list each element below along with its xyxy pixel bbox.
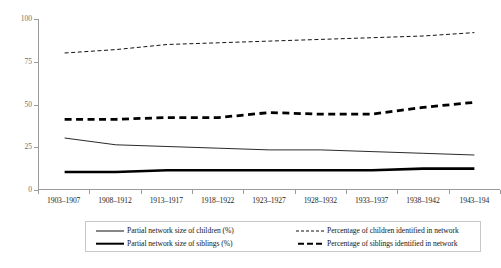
legend-label: Partial network size of siblings (%)	[127, 239, 233, 248]
x-axis-tick-label: 1938–1942	[397, 196, 448, 205]
x-axis-tick-mark	[243, 190, 244, 194]
y-axis-tick-mark	[34, 190, 38, 191]
y-axis-tick-label: 25	[0, 143, 38, 151]
legend-label: Partial network size of children (%)	[127, 226, 234, 235]
x-axis-tick-label: 1928–1932	[295, 196, 346, 205]
legend-line-swatch-dashed-bold-icon	[296, 239, 324, 248]
legend: Partial network size of children (%) Par…	[85, 221, 481, 252]
x-axis-tick-mark	[449, 190, 450, 194]
series-line-1	[65, 169, 475, 172]
legend-label: Percentage of children identified in net…	[327, 226, 459, 235]
x-axis-tick-label: 1913–1917	[141, 196, 192, 205]
legend-line-swatch-solid-thin-icon	[96, 226, 124, 235]
series-layer	[39, 19, 500, 189]
series-line-3	[65, 102, 475, 119]
y-axis-tick-label: 0	[0, 186, 38, 194]
x-axis-tick-mark	[38, 190, 39, 194]
x-axis-tick-label: 1918–1922	[192, 196, 243, 205]
legend-line-swatch-solid-thick-icon	[96, 239, 124, 248]
chart-container: 1007550250 1903–19071908–19121913–191719…	[0, 0, 501, 268]
legend-item-pct-children: Percentage of children identified in net…	[296, 226, 459, 235]
legend-line-swatch-dashed-fine-icon	[296, 226, 324, 235]
x-axis-tick-mark	[346, 190, 347, 194]
x-axis-tick-label: 1908–1912	[89, 196, 140, 205]
x-axis-tick-label: 1943–194	[449, 196, 500, 205]
plot-area	[38, 19, 500, 190]
x-axis-tick-label: 1923–1927	[243, 196, 294, 205]
x-axis-tick-label: 1903–1907	[38, 196, 89, 205]
x-axis-tick-mark	[141, 190, 142, 194]
legend-item-partial-siblings: Partial network size of siblings (%)	[96, 239, 233, 248]
x-axis-tick-mark	[192, 190, 193, 194]
legend-item-pct-siblings: Percentage of siblings identified in net…	[296, 239, 457, 248]
legend-label: Percentage of siblings identified in net…	[327, 239, 457, 248]
x-axis-tick-label: 1933–1937	[346, 196, 397, 205]
legend-item-partial-children: Partial network size of children (%)	[96, 226, 234, 235]
series-line-2	[65, 33, 475, 53]
x-axis-tick-mark	[295, 190, 296, 194]
series-line-0	[65, 138, 475, 155]
x-axis-tick-mark	[397, 190, 398, 194]
x-axis-tick-mark	[89, 190, 90, 194]
y-axis-tick-label: 50	[0, 101, 38, 109]
y-axis-tick-label: 75	[0, 58, 38, 66]
y-axis-tick-label: 100	[0, 15, 38, 23]
